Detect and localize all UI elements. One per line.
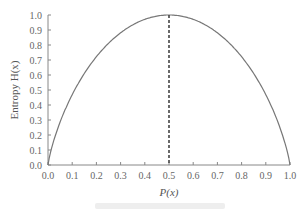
y-tick-label: 0.2	[30, 130, 43, 141]
x-tick-label: 0.4	[139, 170, 152, 181]
x-tick-label: 0.3	[114, 170, 127, 181]
x-tick-label: 0.7	[211, 170, 224, 181]
entropy-chart: 0.00.10.20.30.40.50.60.70.80.91.00.00.10…	[0, 0, 306, 215]
x-tick-label: 0.9	[260, 170, 273, 181]
y-tick-label: 0.4	[30, 100, 43, 111]
figure-caption	[95, 203, 225, 209]
y-tick-label: 0.9	[30, 25, 43, 36]
y-tick-label: 0.6	[30, 70, 43, 81]
x-tick-label: 0.1	[66, 170, 79, 181]
x-tick-label: 0.2	[90, 170, 103, 181]
y-tick-label: 0.5	[30, 85, 43, 96]
y-tick-label: 0.7	[30, 55, 43, 66]
y-axis-label: Entropy H(x)	[8, 60, 21, 119]
x-tick-label: 0.8	[235, 170, 248, 181]
y-tick-label: 1.0	[30, 10, 43, 21]
y-tick-label: 0.1	[30, 145, 43, 156]
x-tick-label: 0.0	[42, 170, 55, 181]
x-tick-label: 0.5	[163, 170, 176, 181]
x-tick-label: 0.6	[187, 170, 200, 181]
y-tick-label: 0.8	[30, 40, 43, 51]
y-tick-label: 0.0	[30, 160, 43, 171]
x-tick-label: 1.0	[284, 170, 297, 181]
x-axis-label: P(x)	[159, 186, 179, 199]
axes: 0.00.10.20.30.40.50.60.70.80.91.00.00.10…	[30, 10, 297, 182]
y-tick-label: 0.3	[30, 115, 43, 126]
